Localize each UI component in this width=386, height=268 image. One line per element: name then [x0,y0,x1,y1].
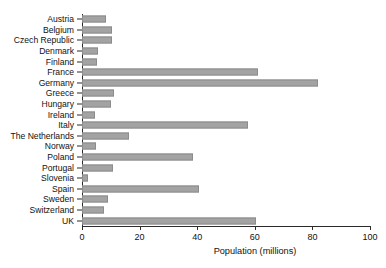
bar [82,143,96,150]
category-label: Ireland [48,110,74,119]
bar [82,217,256,224]
category-label: Czech Republic [14,36,74,45]
category-label: Sweden [43,195,74,204]
category-label: France [47,68,74,77]
category-label: UK [62,216,74,225]
bar-row: Slovenia [0,173,386,184]
x-axis-tick [255,226,256,230]
bar-row: Hungary [0,99,386,110]
bar-row: Finland [0,56,386,67]
bar [82,196,108,203]
bar-row: Belgium [0,25,386,36]
category-label: Finland [46,57,74,66]
x-axis-tick-label: 80 [307,232,317,242]
bar [82,164,113,171]
bar-row: UK [0,215,386,226]
bar [82,69,258,76]
x-axis-line [82,226,370,227]
x-axis-tick-label: 40 [192,232,202,242]
x-axis-tick-label: 20 [135,232,145,242]
category-label: Poland [47,153,74,162]
x-axis-tick [140,226,141,230]
category-label: Belgium [43,25,74,34]
bar-row: Spain [0,184,386,195]
bar-row: Denmark [0,46,386,57]
x-axis-tick [82,226,83,230]
bar [82,16,106,23]
bar [82,58,97,65]
category-label: Norway [45,142,74,151]
bar-chart: AustriaBelgiumCzech RepublicDenmarkFinla… [0,0,386,268]
bar [82,154,193,161]
bar [82,122,248,129]
bar-row: Czech Republic [0,35,386,46]
category-label: Austria [47,15,74,24]
bar-row: Poland [0,152,386,163]
category-label: Denmark [39,47,74,56]
bar-row: Germany [0,78,386,89]
x-axis-title-text: Population (millions) [214,246,297,256]
bar [82,90,114,97]
bar [82,175,88,182]
category-label: Slovenia [41,174,74,183]
bar [82,26,112,33]
bar-row: Norway [0,141,386,152]
bar [82,207,104,214]
bar [82,101,111,108]
bar-row: Portugal [0,162,386,173]
bar [82,37,112,44]
x-axis-tick-label: 60 [250,232,260,242]
category-label: Spain [52,184,74,193]
bar-row: Ireland [0,109,386,120]
category-label: Hungary [42,100,74,109]
category-label: Germany [39,78,74,87]
category-label: Italy [58,121,74,130]
x-axis-tick-label: 0 [79,232,84,242]
x-axis-tick [197,226,198,230]
x-axis-tick-label: 100 [362,232,377,242]
x-axis-tick [312,226,313,230]
bar-row: Greece [0,88,386,99]
x-axis-title: Population (millions) [0,246,386,256]
bar-row: France [0,67,386,78]
bar-row: Switzerland [0,205,386,216]
bar-row: Sweden [0,194,386,205]
bar-row: Italy [0,120,386,131]
bar [82,132,129,139]
bar [82,111,95,118]
x-axis-tick [370,226,371,230]
bar [82,79,318,86]
category-label: Switzerland [30,206,74,215]
category-label: Portugal [42,163,74,172]
bar-row: The Netherlands [0,131,386,142]
bar [82,185,199,192]
category-label: Greece [46,89,74,98]
bar-row: Austria [0,14,386,25]
category-label: The Netherlands [10,131,74,140]
bar [82,48,98,55]
